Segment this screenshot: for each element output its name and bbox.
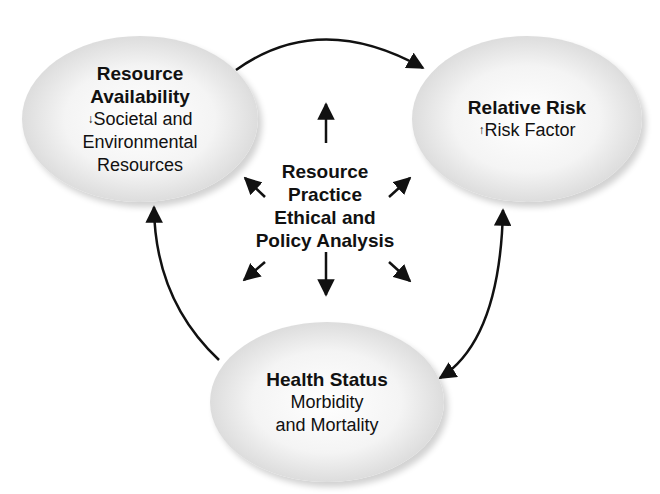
arc-risk-health-bidirectional	[440, 210, 503, 378]
node-subtitle: Resources	[97, 154, 183, 177]
node-resource-availability: Resource Availability ↓Societal and Envi…	[22, 36, 258, 202]
center-line: Policy Analysis	[250, 229, 400, 252]
node-subtitle: Morbidity	[290, 391, 363, 414]
arc-availability-to-risk	[236, 39, 423, 70]
node-subtitle: and Mortality	[275, 414, 378, 437]
node-subtitle: ↑Risk Factor	[478, 119, 575, 142]
node-title: Resource	[97, 62, 184, 85]
center-line: Resource	[250, 160, 400, 183]
node-title: Relative Risk	[468, 96, 586, 119]
arc-health-to-availability	[154, 207, 219, 360]
arrow-lower-left	[244, 262, 265, 280]
arrow-lower-right	[389, 262, 410, 281]
node-relative-risk: Relative Risk ↑Risk Factor	[412, 36, 642, 202]
node-subtitle: ↓Societal and	[87, 108, 192, 131]
node-title: Health Status	[266, 368, 387, 391]
center-label: Resource Practice Ethical and Policy Ana…	[250, 160, 400, 252]
center-line: Ethical and	[250, 206, 400, 229]
node-title: Availability	[90, 85, 190, 108]
center-line: Practice	[250, 183, 400, 206]
node-health-status: Health Status Morbidity and Mortality	[210, 322, 444, 482]
node-subtitle: Environmental	[82, 131, 197, 154]
